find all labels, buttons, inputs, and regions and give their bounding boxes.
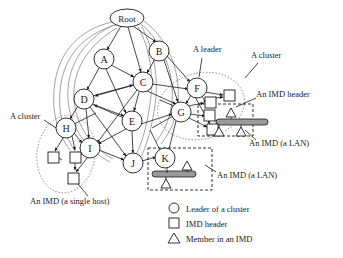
annotation-a-cluster-left: A cluster — [10, 112, 40, 121]
imd-header-square — [68, 173, 79, 184]
lan-bar-k — [152, 171, 196, 177]
node-label-E: E — [129, 116, 135, 127]
imd-header-square — [70, 152, 81, 163]
legend-item-member: Member in an IMD — [186, 234, 252, 244]
node-label-A: A — [100, 54, 108, 65]
imd-header-square — [48, 152, 59, 163]
node-label-D: D — [80, 94, 87, 105]
imd-member-triangle — [226, 108, 236, 117]
imd-header-square — [204, 110, 215, 121]
legend-glyphs — [168, 203, 180, 243]
node-label-C: C — [140, 77, 147, 88]
node-label-K: K — [161, 153, 169, 164]
diagram-svg: Root A B C D E F G H I J K — [0, 0, 343, 258]
legend-square-icon — [169, 218, 179, 228]
diagram-canvas: Root A B C D E F G H I J K A leader A cl… — [0, 0, 343, 258]
node-label-I: I — [88, 143, 91, 154]
annotation-an-imd-header: An IMD header — [256, 90, 310, 99]
annotation-a-leader: A leader — [193, 45, 222, 54]
node-label-J: J — [131, 158, 135, 169]
legend-item-header: IMD header — [186, 219, 227, 229]
node-label-F: F — [194, 83, 200, 94]
annotation-an-imd-lan-right: An IMD (a LAN) — [249, 139, 309, 148]
node-label-H: H — [62, 123, 69, 134]
legend-triangle-icon — [168, 233, 180, 243]
legend-item-leader: Leader of a cluster — [186, 204, 249, 214]
annotation-an-imd-single-host: An IMD (a single host) — [30, 197, 109, 206]
imd-header-square — [224, 90, 235, 101]
imd-header-square — [205, 97, 216, 108]
lan-bar-right — [216, 119, 268, 125]
node-label-G: G — [177, 107, 184, 118]
annotation-an-imd-lan-k: An IMD (a LAN) — [217, 171, 277, 180]
annotation-a-cluster-right: A cluster — [251, 51, 281, 60]
imd-member-triangle — [161, 179, 171, 188]
imd-member-triangle — [182, 161, 192, 170]
imd-member-triangle — [236, 127, 246, 136]
node-label-Root: Root — [118, 14, 136, 24]
node-label-B: B — [156, 46, 163, 57]
legend-circle-icon — [169, 203, 179, 213]
